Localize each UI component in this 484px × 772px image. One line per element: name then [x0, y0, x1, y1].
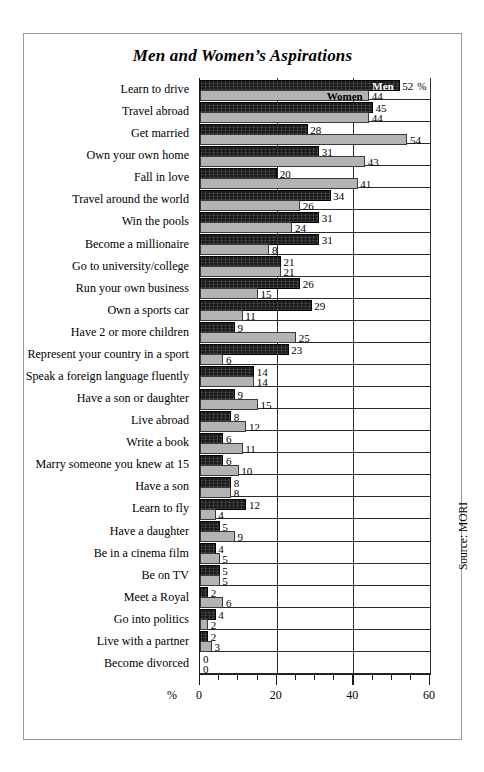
category-label: Become a millionaire	[24, 238, 194, 250]
category-label: Be in a cinema film	[24, 547, 194, 559]
row-separator	[200, 518, 430, 519]
bar-value-men: 29	[314, 301, 325, 311]
row-separator	[200, 629, 430, 630]
row-separator	[200, 585, 430, 586]
x-axis-unit-label: %	[167, 688, 177, 703]
category-label: Win the pools	[24, 215, 194, 227]
bar-women	[200, 399, 258, 410]
x-tick-minor	[237, 674, 238, 680]
bar-women	[200, 354, 223, 365]
source-note: Source: MORI	[457, 502, 469, 570]
x-tick-minor	[218, 674, 219, 680]
bar-value-women: 9	[238, 532, 244, 542]
category-label: Speak a foreign language fluently	[24, 370, 194, 382]
bar-women	[200, 641, 212, 652]
bar-women	[200, 443, 243, 454]
bar-women	[200, 509, 216, 520]
bar-women	[200, 222, 292, 233]
bar-women	[200, 266, 281, 277]
x-tick-minor	[333, 674, 334, 680]
category-label: Be on TV	[24, 569, 194, 581]
legend-label-women: Women	[327, 91, 363, 101]
category-label: Go to university/college	[24, 260, 194, 272]
bar-value-women: 11	[245, 444, 256, 454]
bar-value-men: 26	[303, 279, 314, 289]
x-tick-major	[429, 674, 430, 685]
category-label: Learn to fly	[24, 502, 194, 514]
category-label: Travel abroad	[24, 105, 194, 117]
bar-value-women: 6	[226, 598, 232, 608]
bar-value-women: 4	[218, 510, 224, 520]
category-label: Live with a partner	[24, 635, 194, 647]
bar-women	[200, 112, 369, 123]
category-label: Run your own business	[24, 282, 194, 294]
bar-women	[200, 156, 365, 167]
bar-value-women: 10	[241, 466, 252, 476]
category-label: Travel around the world	[24, 193, 194, 205]
bar-value-women: 12	[249, 422, 260, 432]
category-label: Get married	[24, 127, 194, 139]
x-tick-major	[276, 674, 277, 685]
bar-women	[200, 553, 220, 564]
category-label: Represent your country in a sport	[24, 348, 194, 360]
bar-women	[200, 421, 246, 432]
first-value-percent-suffix: %	[417, 81, 426, 91]
x-tick-major	[352, 674, 353, 685]
bar-value-men: 23	[291, 345, 302, 355]
bar-value-women: 11	[245, 311, 256, 321]
bar-value-women: 24	[295, 223, 306, 233]
bar-value-women: 44	[372, 113, 383, 123]
bar-women	[200, 597, 223, 608]
bar-value-women: 26	[303, 201, 314, 211]
bar-women	[200, 200, 300, 211]
category-label: Meet a Royal	[24, 591, 194, 603]
plot-area: 5244Men%Women454428543143204134263124318…	[199, 78, 430, 674]
bar-value-women: 15	[261, 400, 272, 410]
row-separator	[200, 364, 430, 365]
bar-value-women: 14	[257, 377, 268, 387]
x-tick-minor	[314, 674, 315, 680]
x-tick-minor	[410, 674, 411, 680]
x-axis: 0204060	[199, 674, 430, 704]
bar-value-women: 44	[372, 91, 383, 101]
category-label: Write a book	[24, 436, 194, 448]
x-tick-major	[199, 674, 200, 685]
chart-figure-frame: Men and Women’s Aspirations Learn to dri…	[23, 33, 462, 740]
category-label: Have a son	[24, 480, 194, 492]
x-tick-label: 40	[346, 688, 358, 703]
bar-value-women: 21	[284, 267, 295, 277]
bar-women	[200, 619, 208, 630]
bar-value-women: 43	[368, 157, 379, 167]
category-label: Learn to drive	[24, 83, 194, 95]
bar-value-men: 31	[322, 235, 333, 245]
row-separator	[200, 563, 430, 564]
bar-women	[200, 310, 243, 321]
bar-women	[200, 376, 254, 387]
bar-value-men: 31	[322, 213, 333, 223]
category-label: Own a sports car	[24, 304, 194, 316]
bar-women	[200, 487, 231, 498]
bar-value-women: 8	[272, 245, 278, 255]
bar-women	[200, 332, 296, 343]
bar-value-women: 25	[299, 333, 310, 343]
plot-right-edge	[430, 78, 431, 674]
category-label: Marry someone you knew at 15	[24, 458, 194, 470]
bar-value-women: 0	[203, 664, 209, 674]
bar-women	[200, 244, 269, 255]
category-label: Have 2 or more children	[24, 326, 194, 338]
bar-value-men: 34	[333, 191, 344, 201]
bar-value-women: 6	[226, 355, 232, 365]
bar-women	[200, 465, 239, 476]
category-label: Own your own home	[24, 149, 194, 161]
x-tick-minor	[257, 674, 258, 680]
row-separator	[200, 607, 430, 608]
x-tick-label: 0	[196, 688, 202, 703]
bar-value-women: 15	[261, 289, 272, 299]
bar-women	[200, 134, 407, 145]
x-tick-minor	[391, 674, 392, 680]
x-tick-minor	[295, 674, 296, 680]
bar-value-women: 5	[222, 554, 228, 564]
category-label: Become divorced	[24, 657, 194, 669]
bar-women	[200, 531, 235, 542]
bar-women	[200, 288, 258, 299]
